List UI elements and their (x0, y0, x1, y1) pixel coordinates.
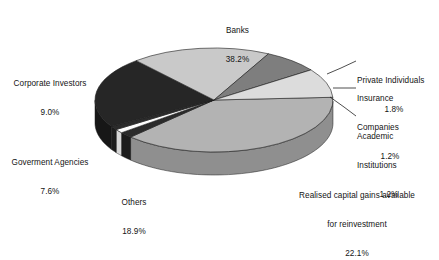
slice-label-corporate-investors-name: Corporate Investors (4, 79, 96, 89)
slice-label-goverment-agencies-name: Goverment Agencies (2, 158, 98, 168)
slice-label-realised-capital-gains-line2: for reinvestment (277, 220, 437, 230)
slice-label-corporate-investors-pct: 9.0% (4, 108, 96, 118)
pie-side-wall (111, 126, 116, 152)
slice-label-goverment-agencies-pct: 7.6% (2, 187, 98, 197)
pie-side-wall (116, 130, 121, 156)
slice-label-goverment-agencies: Goverment Agencies 7.6% (2, 139, 98, 216)
pie-side-wall (122, 133, 131, 160)
slice-label-banks-name: Banks (190, 26, 285, 36)
slice-label-others-pct: 18.9% (104, 227, 164, 237)
slice-label-academic-institutions-line2: Institutions (357, 161, 439, 171)
slice-label-others-name: Others (104, 198, 164, 208)
slice-label-academic-institutions: Academic Institutions 1.2% (357, 113, 439, 219)
slice-label-realised-capital-gains-pct: 22.1% (277, 249, 437, 259)
slice-label-banks: Banks 38.2% (190, 7, 285, 84)
slice-label-insurance-companies-line1: Insurance (357, 94, 439, 104)
leader-line-private-individuals (327, 61, 356, 74)
slice-label-academic-institutions-line1: Academic (357, 132, 439, 142)
slice-label-others: Others 18.9% (104, 179, 164, 256)
leader-line-academic-institutions (330, 97, 356, 116)
slice-label-corporate-investors: Corporate Investors 9.0% (4, 60, 96, 137)
slice-label-banks-pct: 38.2% (190, 55, 285, 65)
slice-label-academic-institutions-pct: 1.2% (357, 190, 421, 200)
